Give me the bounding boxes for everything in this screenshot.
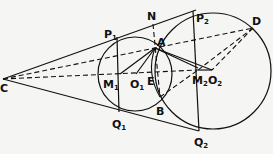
- label-c: C: [0, 82, 8, 95]
- label-o2: O2: [208, 74, 222, 88]
- segment-a-o2: [155, 48, 212, 70]
- dashed-c-d: [3, 28, 253, 79]
- label-m1: M1: [103, 78, 119, 92]
- label-m2: M2: [192, 74, 208, 88]
- label-a: A: [157, 36, 166, 49]
- label-o1: O1: [130, 78, 144, 92]
- dashed-d-m2: [198, 28, 253, 70]
- label-d: D: [252, 15, 261, 28]
- diagram-canvas: C P1 Q1 M1 O1 N A E B P2 Q2 M2 O2 D: [0, 0, 273, 154]
- label-e: E: [147, 75, 155, 88]
- label-p2: P2: [196, 12, 209, 26]
- label-b: B: [156, 105, 164, 118]
- label-p1: P1: [104, 28, 117, 42]
- label-q2: Q2: [194, 136, 208, 150]
- dashed-d-o2: [212, 28, 253, 70]
- upper-tangent: [3, 10, 196, 79]
- geometry-diagram: C P1 Q1 M1 O1 N A E B P2 Q2 M2 O2 D: [0, 0, 273, 154]
- label-q1: Q1: [112, 118, 126, 132]
- label-n: N: [147, 10, 156, 23]
- dashed-c-m2: [3, 70, 198, 79]
- chord-p1-q1: [117, 37, 119, 112]
